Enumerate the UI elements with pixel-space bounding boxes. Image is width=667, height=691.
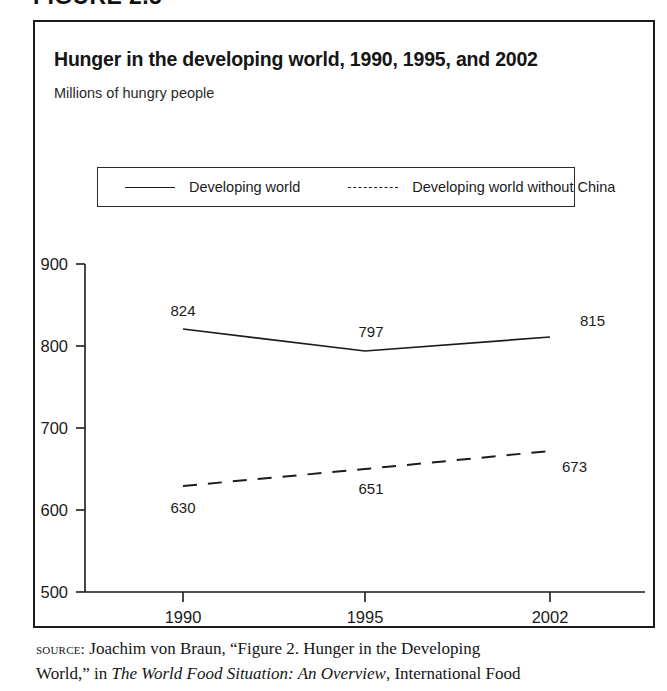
figure-box: Hunger in the developing world, 1990, 19… [33,20,655,628]
source-label: source: [36,640,85,657]
y-tick-label-500: 500 [40,583,68,601]
y-tick-label-700: 700 [40,419,68,437]
y-tick-label-900: 900 [40,255,68,273]
source-line2-prefix: World,” in [36,664,112,683]
source-publication-title: The World Food Situation: An Overview [112,664,386,683]
data-label-developing-world-without-china-1995: 651 [358,480,383,497]
y-tick-label-800: 800 [40,337,68,355]
x-tick-label-1995: 1995 [347,608,384,626]
figure-number: FIGURE 2.5 [33,0,162,10]
chart-plot-area: 900 800 700 600 500 1990 1995 2002 824 7… [35,22,657,630]
data-label-developing-world-without-china-2002: 673 [562,458,587,475]
data-label-developing-world-2002: 815 [580,312,605,329]
data-label-developing-world-1995: 797 [358,323,383,340]
y-tick-label-600: 600 [40,501,68,519]
x-tick-label-2002: 2002 [532,608,569,626]
x-tick-label-1990: 1990 [165,608,202,626]
source-line1: Joachim von Braun, “Figure 2. Hunger in … [85,639,480,658]
data-label-developing-world-1990: 824 [170,302,195,319]
source-line2-suffix: , International Food [386,664,521,683]
source-note: source: Joachim von Braun, “Figure 2. Hu… [36,636,651,686]
data-label-developing-world-without-china-1990: 630 [170,499,195,516]
